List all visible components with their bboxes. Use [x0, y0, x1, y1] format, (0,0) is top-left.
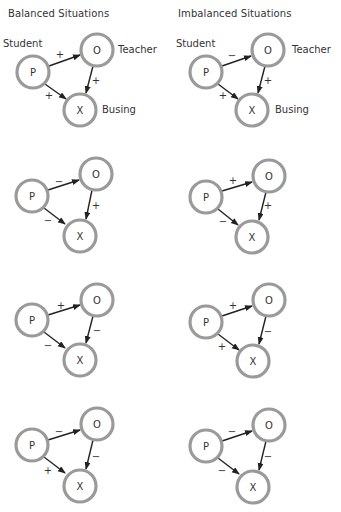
svg-text:P: P	[29, 191, 35, 202]
sign-p-x: −	[218, 465, 226, 476]
sign-o-x: +	[264, 75, 272, 86]
svg-text:P: P	[203, 192, 209, 203]
svg-text:P: P	[203, 317, 209, 328]
sign-o-x: −	[93, 325, 101, 336]
sign-p-o: +	[229, 300, 237, 311]
sign-p-o: +	[229, 175, 237, 186]
svg-text:X: X	[77, 105, 84, 116]
sign-o-x: +	[264, 200, 272, 211]
svg-text:P: P	[29, 440, 35, 451]
svg-text:O: O	[93, 419, 101, 430]
sign-p-x: +	[218, 341, 226, 352]
svg-text:X: X	[250, 356, 257, 367]
sign-p-x: +	[44, 465, 52, 476]
svg-text:X: X	[77, 231, 84, 242]
diagram-imbalanced-1: − + + P O X	[190, 34, 284, 126]
svg-text:P: P	[30, 67, 36, 78]
svg-text:X: X	[77, 481, 84, 492]
sign-o-x: +	[92, 200, 100, 211]
svg-text:O: O	[93, 45, 101, 56]
svg-text:P: P	[29, 315, 35, 326]
sign-p-o: −	[55, 426, 63, 437]
diagram-imbalanced-2: + + − P O X	[190, 160, 285, 253]
svg-text:O: O	[264, 45, 272, 56]
sign-p-x: −	[44, 340, 52, 351]
diagram-imbalanced-3: + − + P O X	[190, 284, 285, 377]
sign-p-o: −	[55, 176, 63, 187]
node-x: X	[64, 94, 96, 126]
sign-o-x: −	[264, 326, 272, 337]
svg-text:X: X	[249, 105, 256, 116]
svg-text:X: X	[250, 482, 257, 493]
sign-p-o: −	[228, 50, 236, 61]
svg-text:O: O	[265, 420, 273, 431]
sign-p-x: +	[45, 90, 53, 101]
svg-text:O: O	[92, 169, 100, 180]
node-o: O	[81, 34, 113, 66]
svg-text:X: X	[77, 355, 84, 366]
sign-p-x: +	[219, 90, 227, 101]
svg-text:P: P	[203, 441, 209, 452]
sign-o-x: −	[92, 451, 100, 462]
diagram-balanced-3: + − − P O X	[16, 284, 113, 376]
sign-p-o: −	[228, 426, 236, 437]
diagram-balanced-2: − + − P O X	[16, 158, 112, 252]
sign-p-x: −	[219, 216, 227, 227]
sign-p-x: −	[44, 215, 52, 226]
sign-p-o: +	[57, 300, 65, 311]
sign-o-x: −	[264, 451, 272, 462]
svg-text:X: X	[249, 232, 256, 243]
edge-p-o	[49, 55, 80, 66]
diagram-balanced-1: + + + P O X	[17, 34, 113, 126]
svg-text:P: P	[203, 67, 209, 78]
svg-text:O: O	[93, 295, 101, 306]
diagram-balanced-4: − − + P O X	[16, 408, 113, 502]
svg-text:O: O	[265, 295, 273, 306]
svg-text:O: O	[265, 171, 273, 182]
node-p: P	[17, 56, 49, 88]
pox-diagrams: + + + P O X − + + P O X − + − P O X	[0, 0, 341, 512]
sign-o-x: +	[92, 75, 100, 86]
diagram-imbalanced-4: − − − P O X	[190, 409, 285, 503]
sign-p-o: +	[56, 49, 64, 60]
